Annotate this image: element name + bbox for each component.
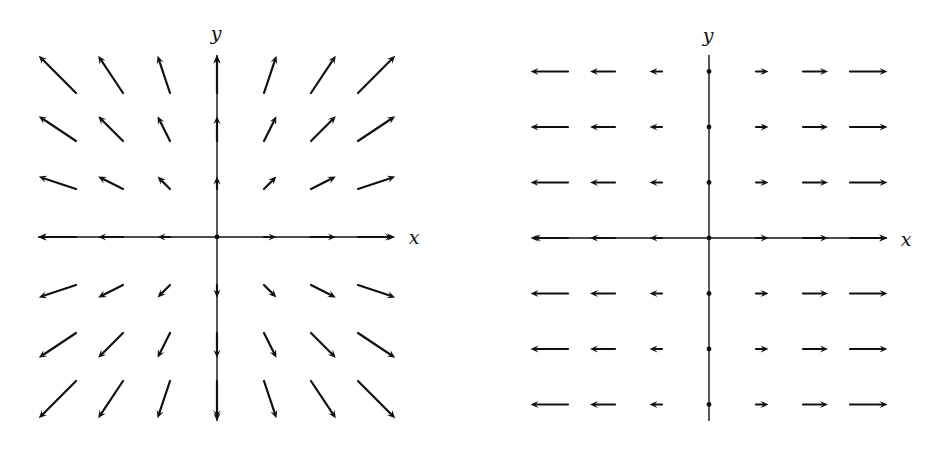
vector-arrow [650, 179, 663, 186]
vector-arrow [39, 333, 76, 358]
vector-arrow [358, 381, 395, 418]
vector-arrow [358, 56, 395, 93]
vector-arrow [650, 123, 663, 130]
vector-arrow [803, 179, 828, 186]
vector-arrow [650, 345, 663, 352]
vector-arrow [158, 285, 170, 297]
vector-arrow [756, 179, 769, 186]
vector-arrow [98, 333, 123, 358]
zero-vector-dot [707, 236, 712, 241]
vector-arrow [850, 234, 888, 241]
vector-arrow [311, 233, 336, 240]
zero-vector-dot [707, 347, 712, 352]
zero-vector-dot [215, 235, 220, 240]
vector-arrow [311, 116, 336, 141]
vector-arrow [98, 56, 123, 93]
vector-arrow [39, 176, 76, 189]
vector-arrow [311, 381, 336, 418]
vector-arrow [358, 116, 395, 141]
zero-vector-dot [707, 180, 712, 185]
vector-arrow [213, 285, 220, 297]
vector-arrow [311, 177, 336, 189]
radial-vector-field-panel: x y [0, 0, 467, 450]
vector-arrow [264, 333, 276, 358]
vector-arrow [98, 116, 123, 141]
vector-arrow [98, 233, 123, 240]
vector-arrow [157, 381, 170, 418]
vector-arrow [531, 179, 569, 186]
vector-arrow [650, 234, 663, 241]
vector-arrow [756, 290, 769, 297]
vector-arrow [264, 116, 276, 141]
vector-arrow [158, 116, 170, 141]
vector-arrow [803, 234, 828, 241]
vector-arrow [756, 234, 769, 241]
vector-arrow [850, 179, 888, 186]
vector-arrow [39, 56, 76, 93]
vector-arrow [264, 177, 276, 189]
zero-vector-dot [707, 69, 712, 74]
horizontal-vector-field-plot [467, 0, 934, 450]
vector-arrow [531, 68, 569, 75]
vector-arrow [264, 381, 277, 418]
vector-arrow [158, 333, 170, 358]
vector-arrow [756, 123, 769, 130]
vector-arrow [650, 401, 663, 408]
vector-arrow [850, 290, 888, 297]
vector-arrow [590, 401, 615, 408]
vector-arrow [850, 345, 888, 352]
vector-arrow [803, 123, 828, 130]
vector-arrow [650, 290, 663, 297]
vector-arrow [650, 68, 663, 75]
vector-arrow [158, 233, 170, 240]
vector-arrow [803, 345, 828, 352]
y-axis-label: y [211, 24, 222, 43]
vector-arrow [358, 333, 395, 358]
vector-arrow [590, 290, 615, 297]
vector-arrow [590, 345, 615, 352]
vector-arrow [157, 56, 170, 93]
vector-arrow [850, 123, 888, 130]
vector-arrow [213, 381, 220, 418]
vector-arrow [39, 285, 76, 298]
vector-arrow [213, 116, 220, 141]
vector-arrow [98, 381, 123, 418]
vector-arrow [850, 68, 888, 75]
zero-vector-dot [707, 291, 712, 296]
x-axis-label: x [901, 230, 912, 249]
vector-arrow [39, 116, 76, 141]
vector-arrow [98, 285, 123, 297]
vector-arrow [311, 285, 336, 297]
y-axis-label: y [703, 26, 714, 45]
vector-arrow [213, 333, 220, 358]
vector-arrow [803, 401, 828, 408]
x-axis-label: x [409, 228, 420, 247]
vector-arrow [264, 285, 276, 297]
vector-arrow [39, 381, 76, 418]
vector-arrow [590, 123, 615, 130]
zero-vector-dot [707, 402, 712, 407]
vector-arrow [531, 401, 569, 408]
vector-arrow [803, 68, 828, 75]
vector-arrow [311, 56, 336, 93]
vector-arrow [756, 401, 769, 408]
vector-arrow [358, 176, 395, 189]
horizontal-vector-field-panel: x y [467, 0, 934, 450]
vector-arrow [590, 234, 615, 241]
radial-vector-field-plot [0, 0, 467, 450]
vector-arrow [213, 177, 220, 189]
vector-arrow [531, 345, 569, 352]
vector-arrow [158, 177, 170, 189]
vector-arrow [264, 233, 276, 240]
vector-arrow [756, 68, 769, 75]
vector-arrow [264, 56, 277, 93]
vector-arrow [531, 123, 569, 130]
vector-arrow [311, 333, 336, 358]
vector-arrow [590, 179, 615, 186]
vector-arrow [98, 177, 123, 189]
vector-arrow [756, 345, 769, 352]
zero-vector-dot [707, 125, 712, 130]
vector-arrow [590, 68, 615, 75]
vector-arrow [850, 401, 888, 408]
vector-arrow [358, 285, 395, 298]
